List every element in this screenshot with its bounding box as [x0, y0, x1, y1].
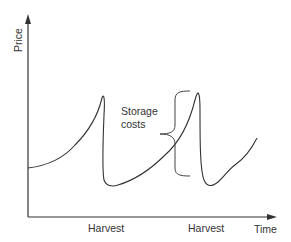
storage-costs-label-line2: costs [121, 118, 146, 130]
y-axis-label: Price [12, 28, 24, 52]
y-axis-arrow-icon [25, 14, 31, 24]
storage-costs-label-line1: Storage [121, 105, 158, 117]
harvest-label-1: Harvest [88, 222, 124, 234]
price-cycle-diagram: Price Time Harvest Harvest Storage costs [0, 0, 291, 242]
x-axis-arrow-icon [267, 214, 277, 220]
x-axis-label: Time [254, 223, 277, 235]
storage-costs-brace [160, 91, 190, 176]
harvest-label-2: Harvest [188, 222, 224, 234]
